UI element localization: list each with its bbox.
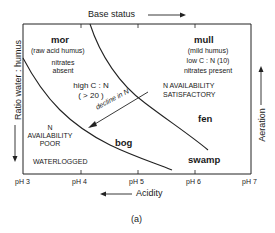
tick-ph3: pH 3 (15, 178, 30, 185)
tick-ph4: pH 4 (72, 178, 87, 185)
mull-nitrates: nitrates present (176, 67, 240, 74)
decline-arrowhead (88, 121, 97, 128)
bottom-axis-label: Acidity (136, 188, 163, 198)
mull-title: mull (194, 34, 214, 45)
bog-title: bog (115, 137, 132, 148)
waterlogged-label: WATERLOGGED (33, 158, 87, 165)
n-satisfactory-line1: N AVAILABILITY (163, 82, 215, 89)
mor-desc: (raw acid humus) (31, 47, 85, 54)
tick-ph7: pH 7 (242, 178, 257, 185)
tick-ph5: pH 5 (129, 178, 144, 185)
mull-desc: (mild humus) (180, 47, 236, 54)
right-axis-label: Aeration (257, 95, 267, 155)
n-poor-line2: AVAILABILITY (25, 132, 75, 139)
top-axis-label: Base status (88, 9, 135, 19)
swamp-title: swamp (188, 154, 220, 165)
diagram-graphics (0, 0, 275, 233)
high-cn: high C : N (66, 81, 116, 90)
tick-ph6: pH 6 (186, 178, 201, 185)
mor-title: mor (51, 34, 69, 45)
mull-cn: low C : N (10) (180, 57, 236, 64)
n-satisfactory-line2: SATISFACTORY (163, 91, 216, 98)
figure-caption: (a) (131, 214, 142, 224)
n-poor-line1: N (25, 124, 75, 131)
mor-absent: absent (43, 67, 83, 74)
curve-bog (23, 58, 172, 170)
n-poor-line3: POOR (25, 140, 75, 147)
left-axis-label: Ratio water : humus (13, 30, 23, 130)
mor-nitrates: nitrates (43, 59, 83, 66)
fen-title: fen (198, 113, 212, 124)
